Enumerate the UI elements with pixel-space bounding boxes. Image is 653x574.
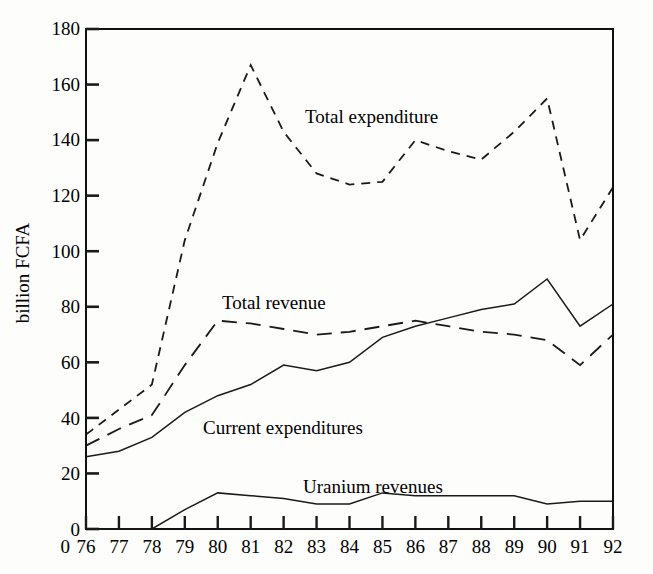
x-tick-87: 87 — [431, 536, 465, 558]
x-tick-77: 77 — [102, 536, 136, 558]
x-tick-92: 92 — [596, 536, 630, 558]
series-label-uranium-revenues: Uranium revenues — [303, 476, 443, 497]
series-label-total-expenditure: Total expenditure — [305, 106, 438, 127]
y-tick-180: 180 — [36, 19, 80, 38]
x-tick-76: 76 — [69, 536, 103, 558]
series-label-current-expenditures: Current expenditures — [203, 417, 363, 438]
y-tick-40: 40 — [36, 409, 80, 428]
x-tick-86: 86 — [398, 536, 432, 558]
x-tick-84: 84 — [333, 536, 367, 558]
y-tick-100: 100 — [36, 242, 80, 261]
y-tick-20: 20 — [36, 464, 80, 483]
x-tick-80: 80 — [201, 536, 235, 558]
y-tick-80: 80 — [36, 297, 80, 316]
y-axis-title: billion FCFA — [12, 188, 34, 358]
y-tick-120: 120 — [36, 186, 80, 205]
x-tick-79: 79 — [168, 536, 202, 558]
x-tick-91: 91 — [563, 536, 597, 558]
x-tick-83: 83 — [300, 536, 334, 558]
x-tick-85: 85 — [365, 536, 399, 558]
chart-figure: 180 160 140 120 100 80 60 40 20 0 billio… — [0, 0, 653, 574]
x-tick-89: 89 — [497, 536, 531, 558]
x-tick-78: 78 — [135, 536, 169, 558]
y-tick-140: 140 — [36, 130, 80, 149]
x-tick-81: 81 — [234, 536, 268, 558]
series-label-total-revenue: Total revenue — [222, 292, 326, 313]
x-axis-tick-labels: 7677787980818283848586878889909192 — [0, 536, 653, 566]
x-tick-82: 82 — [267, 536, 301, 558]
x-tick-88: 88 — [464, 536, 498, 558]
y-tick-60: 60 — [36, 353, 80, 372]
y-tick-160: 160 — [36, 75, 80, 94]
x-tick-90: 90 — [530, 536, 564, 558]
